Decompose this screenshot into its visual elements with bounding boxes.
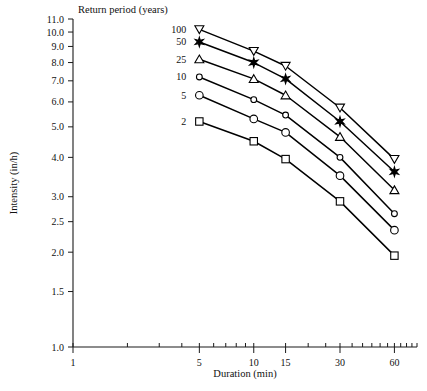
- plot-background: [0, 0, 427, 391]
- data-point-2-10min: [250, 138, 257, 145]
- x-tick-label-30: 30: [335, 357, 345, 368]
- data-point-10-10min: [251, 97, 257, 103]
- y-tick-label-9.0: 9.0: [52, 41, 65, 52]
- y-tick-label-11.0: 11.0: [47, 14, 64, 25]
- y-tick-label-6.0: 6.0: [52, 96, 65, 107]
- legend-label-100: 100: [171, 24, 186, 35]
- x-tick-label-15: 15: [281, 357, 291, 368]
- idf-curve-figure: 1.01.52.02.53.04.05.06.07.08.09.010.011.…: [0, 0, 427, 391]
- y-axis-label: Intensity (in/h): [8, 151, 20, 214]
- y-tick-label-5.0: 5.0: [52, 121, 65, 132]
- legend-label-25: 25: [176, 54, 186, 65]
- data-point-10-60min: [392, 211, 398, 217]
- y-tick-label-3.0: 3.0: [52, 191, 65, 202]
- y-tick-label-10.0: 10.0: [47, 27, 65, 38]
- data-point-5-60min: [391, 226, 399, 234]
- y-tick-label-2.0: 2.0: [52, 247, 65, 258]
- x-tick-label-5: 5: [197, 357, 202, 368]
- legend-label-50: 50: [176, 36, 186, 47]
- x-tick-label-60: 60: [389, 357, 399, 368]
- y-tick-label-7.0: 7.0: [52, 75, 65, 86]
- data-point-10-30min: [337, 154, 343, 160]
- data-point-2-60min: [391, 252, 398, 259]
- y-tick-label-4.0: 4.0: [52, 152, 65, 163]
- data-point-2-15min: [282, 155, 289, 162]
- y-tick-label-1.5: 1.5: [52, 286, 65, 297]
- data-point-10-5min: [196, 74, 202, 80]
- y-tick-label-8.0: 8.0: [52, 57, 65, 68]
- legend-label-5: 5: [181, 90, 186, 101]
- y-tick-label-2.5: 2.5: [52, 216, 65, 227]
- legend-label-10: 10: [176, 71, 186, 82]
- x-axis-label: Duration (min): [213, 368, 277, 380]
- x-tick-label-1: 1: [71, 357, 76, 368]
- data-point-2-5min: [196, 118, 203, 125]
- data-point-5-5min: [196, 91, 204, 99]
- legend-title: Return period (years): [78, 4, 168, 16]
- x-tick-label-10: 10: [249, 357, 259, 368]
- data-point-10-15min: [283, 112, 289, 118]
- data-point-5-10min: [250, 115, 258, 123]
- data-point-5-15min: [282, 129, 290, 137]
- intensity-duration-frequency-chart: 1.01.52.02.53.04.05.06.07.08.09.010.011.…: [0, 0, 427, 391]
- data-point-2-30min: [336, 198, 343, 205]
- legend-label-2: 2: [181, 116, 186, 127]
- y-tick-label-1.0: 1.0: [52, 342, 65, 353]
- data-point-5-30min: [336, 172, 344, 180]
